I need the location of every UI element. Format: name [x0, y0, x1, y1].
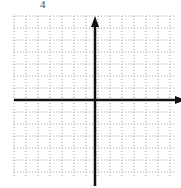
- y-axis-arrow-icon: [91, 16, 99, 27]
- coordinate-grid: [0, 0, 181, 188]
- x-axis-arrow-icon: [175, 96, 181, 104]
